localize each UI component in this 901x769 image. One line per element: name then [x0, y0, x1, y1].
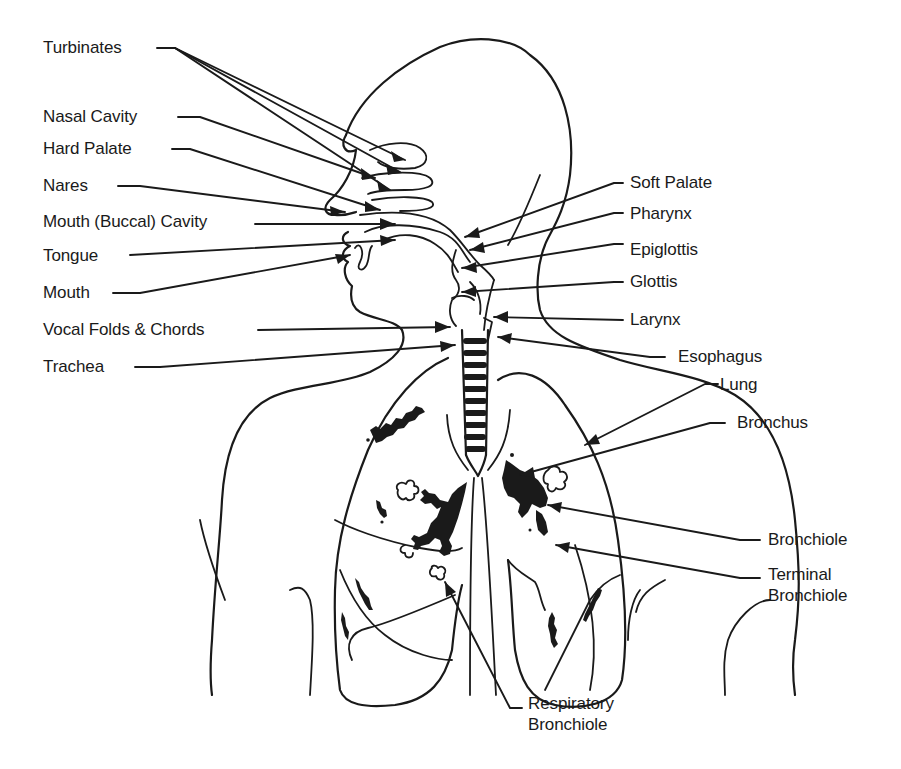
label-epiglottis: Epiglottis — [630, 240, 698, 260]
label-glottis: Glottis — [630, 272, 677, 292]
label-nasal-cavity: Nasal Cavity — [43, 107, 137, 127]
arrow-turbinates-1 — [391, 151, 405, 162]
arrow-turbinates-3 — [377, 180, 390, 191]
label-vocal-folds: Vocal Folds & Chords — [43, 320, 204, 340]
body-outline — [200, 39, 799, 695]
leader-lines — [113, 48, 760, 708]
label-trachea: Trachea — [43, 357, 104, 377]
arrow-hard-palate — [365, 201, 380, 212]
label-bronchus: Bronchus — [737, 413, 808, 433]
arrow-nasal-cavity — [361, 168, 375, 180]
label-pharynx: Pharynx — [630, 204, 692, 224]
arrow-vocal-folds — [435, 321, 450, 333]
label-esophagus: Esophagus — [678, 347, 762, 367]
arrow-bronchiole — [548, 502, 562, 513]
arrow-buccal-cavity — [380, 218, 395, 230]
label-terminal-bronchiole: Terminal Bronchiole — [768, 564, 847, 606]
label-mouth-buccal-cavity: Mouth (Buccal) Cavity — [43, 212, 207, 232]
label-terminal-bronchiole-line-2: Bronchiole — [768, 585, 847, 606]
arrow-pharynx — [470, 242, 485, 253]
arrow-esophagus — [498, 333, 512, 344]
left-lung — [335, 358, 467, 706]
label-terminal-bronchiole-line-1: Terminal — [768, 564, 847, 585]
arrow-soft-palate — [465, 227, 480, 238]
label-respiratory-bronchiole-line-2: Bronchiole — [528, 714, 614, 735]
label-respiratory-bronchiole-line-1: Respiratory — [528, 693, 614, 714]
label-hard-palate: Hard Palate — [43, 139, 132, 159]
right-lung — [498, 373, 625, 707]
arrow-larynx — [494, 311, 508, 323]
label-tongue: Tongue — [43, 246, 98, 266]
label-bronchiole: Bronchiole — [768, 530, 847, 550]
label-soft-palate: Soft Palate — [630, 173, 712, 193]
respiratory-diagram: Turbinates Nasal Cavity Hard Palate Nare… — [0, 0, 901, 769]
label-nares: Nares — [43, 176, 88, 196]
arrow-trachea — [440, 341, 455, 352]
label-respiratory-bronchiole: Respiratory Bronchiole — [528, 693, 614, 735]
label-turbinates: Turbinates — [43, 38, 122, 58]
arrowheads — [330, 151, 600, 597]
label-larynx: Larynx — [630, 310, 680, 330]
arrow-terminal-bronchiole — [556, 542, 570, 553]
label-lung: Lung — [720, 375, 757, 395]
label-mouth: Mouth — [43, 283, 90, 303]
arrow-epiglottis — [462, 262, 477, 273]
